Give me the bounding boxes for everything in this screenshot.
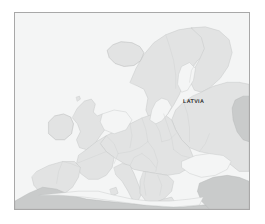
- europe-map-figure: LATVIA: [0, 0, 265, 224]
- map-label-latvia: LATVIA: [183, 100, 204, 105]
- map-frame: LATVIA: [14, 12, 250, 210]
- map-canvas: [15, 13, 249, 209]
